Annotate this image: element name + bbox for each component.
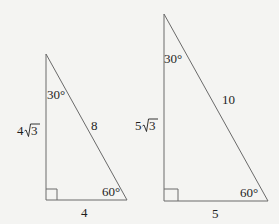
vertical-leg-coefficient: 5 [135, 118, 142, 133]
triangle-large-outline [164, 14, 268, 201]
hypotenuse-label: 10 [222, 92, 235, 107]
angle-label-30: 30° [47, 87, 65, 102]
vertical-leg-label: 5 3 [135, 118, 158, 133]
hypotenuse-label: 8 [91, 118, 98, 133]
diagram-canvas: 30° 60° 8 4 4 3 30° 60° 10 5 5 3 [0, 0, 279, 224]
right-angle-marker-icon [46, 189, 57, 200]
angle-label-60: 60° [102, 184, 120, 199]
right-angle-marker-icon [164, 189, 178, 201]
vertical-leg-radicand: 3 [149, 118, 156, 133]
base-label: 4 [81, 205, 88, 220]
triangle-small-outline [46, 54, 127, 200]
vertical-leg-radicand: 3 [31, 123, 38, 138]
base-label: 5 [212, 206, 219, 221]
angle-label-30: 30° [164, 51, 182, 66]
triangle-large: 30° 60° 10 5 5 3 [135, 14, 268, 221]
vertical-leg-label: 4 3 [17, 123, 40, 138]
angle-label-60: 60° [240, 185, 258, 200]
vertical-leg-coefficient: 4 [17, 123, 24, 138]
triangle-small: 30° 60° 8 4 4 3 [17, 54, 127, 220]
